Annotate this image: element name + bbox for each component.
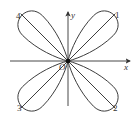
petal-2-label: 2 xyxy=(113,103,118,113)
y-axis-label: y xyxy=(70,10,75,20)
petal-1-label: 1 xyxy=(115,10,120,20)
x-axis-label: x xyxy=(123,62,128,72)
origin-label: O xyxy=(59,62,66,72)
origin-point xyxy=(66,59,70,63)
rose-curve-diagram: y x O 1 2 3 4 xyxy=(0,0,138,120)
petal-3-label: 3 xyxy=(17,103,22,113)
petal-4-label: 4 xyxy=(16,11,21,21)
